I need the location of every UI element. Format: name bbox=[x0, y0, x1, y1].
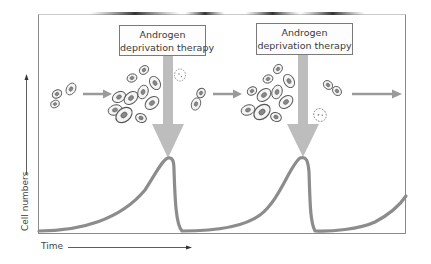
therapy-box-2: Androgen deprivation therapy bbox=[256, 23, 353, 55]
therapy-box-2-line2: deprivation therapy bbox=[257, 39, 352, 52]
diagram-canvas bbox=[0, 0, 431, 264]
y-axis-arrow bbox=[25, 74, 29, 175]
cell-cluster-surviving-2 bbox=[311, 79, 343, 124]
cell-cluster-initial bbox=[50, 81, 79, 109]
cell-cluster-proliferated-1 bbox=[107, 64, 163, 126]
x-axis-label: Time bbox=[41, 241, 63, 251]
flow-arrow-2 bbox=[213, 90, 242, 99]
flow-arrow-1 bbox=[83, 90, 112, 99]
therapy-arrow-2 bbox=[287, 55, 319, 157]
y-axis-label: Cell numbers bbox=[20, 172, 30, 232]
therapy-box-1: Androgen deprivation therapy bbox=[119, 25, 206, 56]
cell-number-curve bbox=[39, 158, 406, 232]
cell-cluster-surviving-1 bbox=[175, 69, 207, 111]
therapy-box-2-line1: Androgen bbox=[257, 26, 352, 39]
therapy-box-1-line1: Androgen bbox=[120, 28, 205, 41]
x-axis-arrow bbox=[68, 246, 192, 250]
therapy-box-1-line2: deprivation therapy bbox=[120, 41, 205, 54]
flow-arrow-3 bbox=[352, 90, 402, 99]
cell-cluster-proliferated-2 bbox=[240, 63, 297, 123]
